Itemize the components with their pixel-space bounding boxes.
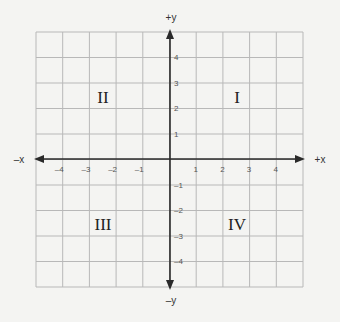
arrow-down-icon <box>166 280 174 290</box>
x-tick-label: 1 <box>193 165 198 174</box>
y-tick-label: –3 <box>174 232 183 241</box>
y-tick-label: 1 <box>174 130 179 139</box>
axis-label-positive-x: +x <box>315 154 326 165</box>
y-tick-label: –4 <box>174 257 183 266</box>
y-tick-label: 3 <box>174 79 179 88</box>
x-tick-label: 3 <box>247 165 252 174</box>
y-tick-label: 2 <box>174 104 179 113</box>
axis-label-negative-y: –y <box>166 295 177 306</box>
arrow-up-icon <box>166 29 174 39</box>
axis-label-negative-x: –x <box>14 154 25 165</box>
x-tick-label: 4 <box>274 165 279 174</box>
y-tick-label: –1 <box>174 181 183 190</box>
x-tick-label: –4 <box>55 165 64 174</box>
axes <box>34 29 305 290</box>
quadrant-label: III <box>95 215 112 234</box>
quadrant-label: I <box>234 88 240 107</box>
x-tick-label: –3 <box>81 165 90 174</box>
x-tick-label: –2 <box>108 165 117 174</box>
quadrant-label: IV <box>228 215 247 234</box>
x-tick-label: 2 <box>220 165 225 174</box>
y-tick-label: 4 <box>174 53 179 62</box>
x-tick-label: –1 <box>135 165 144 174</box>
y-tick-label: –2 <box>174 206 183 215</box>
axis-label-positive-y: +y <box>166 12 177 23</box>
quadrant-label: II <box>97 88 109 107</box>
coordinate-plane: –4–3–2–112344321–1–2–3–4 IIIIIIIV +y –y … <box>0 0 340 322</box>
